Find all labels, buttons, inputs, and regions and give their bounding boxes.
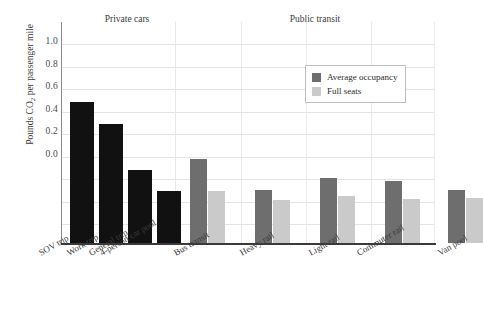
legend-swatch-icon [312,87,321,96]
legend-label: Average occupancy [327,72,398,83]
x-label-commuter-rail: Commuter rail [355,223,406,258]
chart-legend: Average occupancy Full seats [305,65,406,103]
legend-item-average-occupancy: Average occupancy [312,70,398,84]
legend-swatch-icon [312,73,321,82]
x-label-light-rail: Light rail [307,232,341,258]
x-label-bus-transit: Bus transit [172,230,211,258]
bar-van-pool-full-seats [466,198,483,243]
x-label-heavy-rail: Heavy rail [238,230,276,258]
x-label-sov-trip: SOV trip [37,233,70,258]
legend-item-full-seats: Full seats [312,84,398,98]
legend-label: Full seats [327,86,361,97]
